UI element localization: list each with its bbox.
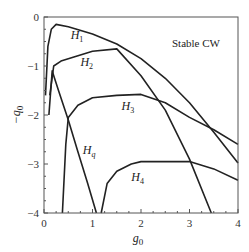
y-tick-label: −3 [27,158,39,170]
y-tick-label: −1 [27,60,39,72]
curve-label-h2: H2 [79,55,93,71]
curve-label-hq: Hq [82,143,96,159]
x-tick-label: 4 [235,217,241,229]
x-tick-label: 2 [138,217,144,229]
y-tick-label: −4 [27,207,39,219]
x-tick-label: 1 [90,217,96,229]
curve-hq [49,71,97,213]
annotation-stable-cw: Stable CW [172,37,221,49]
x-tick-label: 0 [41,217,47,229]
curve-h4 [101,162,238,213]
chart: 012340−1−2−3−4 H1H2H3HqH4 Stable CW g0 −… [0,0,249,252]
x-axis-label: g0 [133,231,144,247]
y-tick-label: −2 [27,109,39,121]
curve-h2 [50,49,212,213]
y-tick-label: 0 [34,11,40,23]
curve-label-h3: H3 [121,99,135,115]
y-axis-label: −q0 [9,105,25,124]
curve-label-h4: H4 [130,170,144,186]
x-tick-label: 3 [187,217,193,229]
